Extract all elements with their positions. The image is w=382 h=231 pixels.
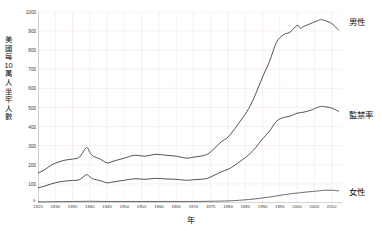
series-line: [38, 20, 339, 173]
y-axis-tick-labels: 1002003004005006007008009001000: [20, 12, 36, 203]
x-axis-tick-label: 2000: [292, 204, 302, 209]
x-axis-tick-label: 1960: [154, 204, 164, 209]
x-axis-tick-labels: 1925193019351940194519501955196019651970…: [38, 204, 342, 213]
x-axis-tick-label: 1945: [102, 204, 112, 209]
y-axis-tick-label: 100: [28, 181, 36, 186]
y-axis-tick-label: 800: [28, 48, 36, 53]
series-label-male: 男性: [349, 15, 365, 27]
x-axis-tick-label: 1950: [120, 204, 130, 209]
plot-area: [38, 12, 342, 203]
x-axis-tick-label: 1925: [33, 204, 43, 209]
y-axis-tick-label: 300: [28, 143, 36, 148]
y-axis-title-char: 數: [1, 113, 16, 122]
gridlines: [38, 12, 342, 203]
x-axis-tick-label: 1935: [68, 204, 78, 209]
y-axis-tick-label: 700: [28, 67, 36, 72]
x-axis-tick-label: 1975: [206, 204, 216, 209]
x-axis-tick-label: 1955: [137, 204, 147, 209]
series-line: [38, 190, 339, 202]
x-axis-tick-label: 1990: [258, 204, 268, 209]
y-axis-tick-label: 400: [28, 124, 36, 129]
origin-tick-label: 0: [33, 198, 35, 203]
x-axis-tick-label: 2010: [327, 204, 337, 209]
incarceration-rate-chart: 美國每10萬人坐牢人數 1002003004005006007008009001…: [0, 0, 382, 231]
x-axis-tick-label: 1985: [240, 204, 250, 209]
x-axis-title: 年: [0, 213, 382, 225]
y-axis-tick-label: 1000: [26, 10, 36, 15]
x-axis-tick-label: 1970: [189, 204, 199, 209]
x-axis-tick-label: 1940: [85, 204, 95, 209]
series-label-female: 女性: [349, 185, 365, 197]
x-axis-tick-label: 2005: [310, 204, 320, 209]
x-axis-tick-label: 1930: [50, 204, 60, 209]
y-axis-tick-label: 200: [28, 162, 36, 167]
x-axis-tick-label: 1980: [223, 204, 233, 209]
series-label-rate: 監禁率: [349, 108, 373, 120]
series-lines: [38, 20, 339, 202]
x-axis-tick-label: 1965: [171, 204, 181, 209]
chart-svg: [38, 12, 342, 203]
y-axis-tick-label: 900: [28, 29, 36, 34]
y-axis-tick-label: 600: [28, 86, 36, 91]
x-axis-tick-label: 1995: [275, 204, 285, 209]
y-axis-title: 美國每10萬人坐牢人數: [1, 36, 16, 122]
series-line: [38, 106, 339, 188]
y-axis-tick-label: 500: [28, 105, 36, 110]
